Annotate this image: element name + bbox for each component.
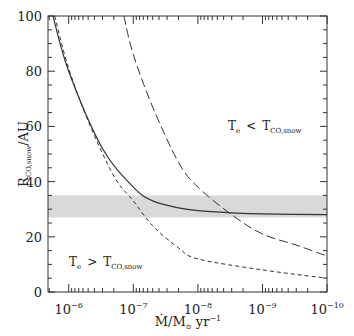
- y-tick-label: 100: [17, 9, 42, 24]
- x-tick-label: 10−7: [119, 301, 147, 317]
- curve-long-dashed: [124, 16, 327, 256]
- curves: [53, 16, 327, 278]
- x-axis-ticks: [49, 16, 327, 292]
- y-tick-label: 80: [25, 64, 42, 79]
- annotation-te-greater-than: Te>TCO,snow: [69, 255, 142, 271]
- y-axis-label: RCO,snow/AU: [16, 121, 33, 187]
- curve-short-dashed: [55, 16, 327, 278]
- chart: 020406080100 10−610−710−810−910−10 RCO,s…: [0, 0, 354, 336]
- curve-solid: [53, 16, 327, 215]
- y-tick-label: 20: [25, 230, 42, 245]
- annotation-te-less-than: Te<TCO,snow: [228, 119, 301, 135]
- y-tick-label: 0: [34, 285, 42, 300]
- plot-area: [48, 16, 327, 292]
- x-tick-label: 10−6: [55, 301, 83, 317]
- plot-frame: [48, 16, 327, 292]
- x-tick-label: 10−10: [310, 301, 343, 317]
- y-axis-ticks: [48, 16, 327, 292]
- x-tick-label: 10−9: [248, 301, 276, 317]
